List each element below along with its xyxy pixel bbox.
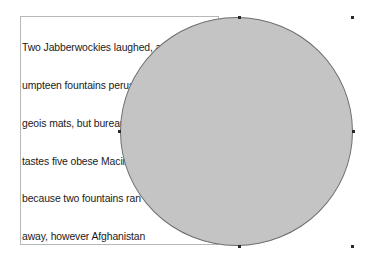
resize-handle-bottom[interactable]	[238, 245, 241, 248]
resize-handle-bottom-right[interactable]	[351, 245, 354, 248]
resize-handle-left[interactable]	[118, 130, 121, 133]
resize-handle-top[interactable]	[238, 16, 241, 19]
text-line: away, however Afghanistan	[22, 231, 193, 244]
ellipse-shape[interactable]	[120, 17, 353, 246]
resize-handle-top-right[interactable]	[351, 16, 354, 19]
resize-handle-right[interactable]	[352, 130, 355, 133]
